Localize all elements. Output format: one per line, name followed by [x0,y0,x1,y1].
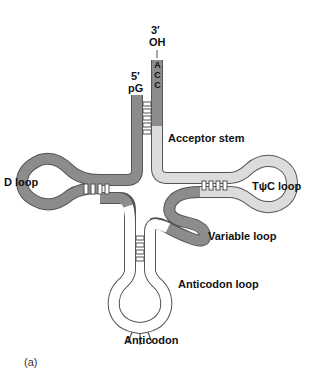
d-loop-label: D loop [4,176,38,188]
base-pair [143,109,151,113]
acceptor-stem [100,50,200,180]
base-pair [136,257,144,261]
d-arm [22,159,130,222]
base-pair [143,123,151,127]
base-pair [84,184,88,194]
variable-loop-strand [152,192,205,241]
base-pair [91,184,95,194]
variable-loop-label: Variable loop [208,230,276,242]
panel-label: (a) [24,356,37,368]
base-pair [98,184,102,194]
anticodon-loop-label: Anticodon loop [178,278,259,290]
base-pair [136,236,144,240]
base-pair [136,243,144,247]
base-pair [143,130,151,134]
base-pair [216,181,220,190]
base-pair [143,102,151,106]
base-pair [143,116,151,120]
three-prime-label: 3′ [151,24,160,36]
base-pair [105,184,109,194]
tpsic-loop-label: TψC loop [252,180,301,192]
base-pair [136,250,144,254]
five-prime-label: 5′ [131,70,140,82]
nucleotide-a: A [154,60,161,70]
nucleotide-c: C [154,80,161,90]
anticodon-arm [114,222,167,345]
base-pair [223,181,227,190]
acceptor-stem-label: Acceptor stem [168,132,244,144]
anticodon-label: Anticodon [124,334,178,346]
base-pair [209,181,213,190]
acc-tail: A C C [154,60,161,90]
five-prime-pg-label: pG [128,82,143,94]
three-prime-oh-label: OH [149,36,166,48]
base-pair [202,181,206,190]
nucleotide-c: C [154,70,161,80]
